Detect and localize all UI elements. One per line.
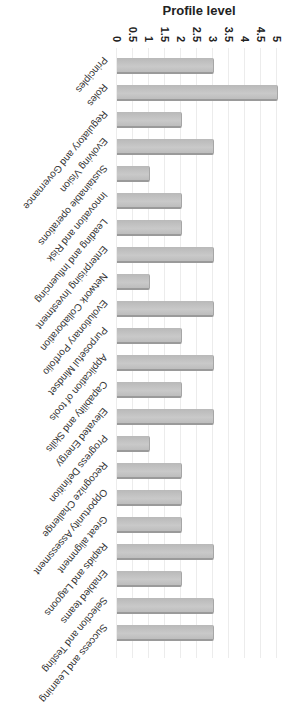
y-tick-label: 0	[111, 36, 123, 42]
bar	[117, 301, 214, 317]
y-tick-label: 3.5	[223, 27, 235, 42]
bar	[117, 112, 182, 128]
y-tick-label: 3	[207, 36, 219, 42]
y-tick-label: 1	[143, 36, 155, 42]
plot-area	[116, 48, 282, 658]
bar	[117, 274, 150, 290]
bar	[117, 193, 182, 209]
bar	[117, 517, 182, 533]
gridline	[228, 48, 229, 658]
y-tick-label: 4	[239, 36, 251, 42]
y-tick-label: 2	[175, 36, 187, 42]
bar	[117, 409, 214, 425]
bar	[117, 85, 278, 101]
y-axis-label: Profile level	[163, 3, 236, 18]
bar	[117, 355, 214, 371]
y-tick-label: 4.5	[255, 27, 267, 42]
bar	[117, 139, 214, 155]
bar	[117, 382, 182, 398]
y-tick-label: 0.5	[127, 27, 139, 42]
bar	[117, 463, 182, 479]
bar	[117, 166, 150, 182]
bar	[117, 220, 182, 236]
bar	[117, 544, 214, 560]
gridline	[244, 48, 245, 658]
bar	[117, 58, 214, 74]
bar	[117, 328, 182, 344]
bar	[117, 436, 150, 452]
bar	[117, 571, 182, 587]
y-tick-label: 1.5	[159, 27, 171, 42]
bar	[117, 247, 214, 263]
y-tick-label: 5	[271, 36, 283, 42]
bar	[117, 490, 182, 506]
bar	[117, 625, 214, 641]
gridline	[276, 48, 277, 658]
y-tick-label: 2.5	[191, 27, 203, 42]
gridline	[260, 48, 261, 658]
bar	[117, 598, 214, 614]
